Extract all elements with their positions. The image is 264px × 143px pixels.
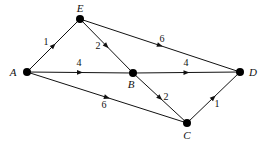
edge-weight-label: 2	[96, 41, 101, 51]
node-b	[129, 69, 137, 77]
node-label-d: D	[249, 67, 257, 78]
graph-canvas	[0, 0, 264, 143]
node-label-c: C	[183, 130, 190, 141]
edge-weight-label: 4	[184, 58, 189, 68]
edge-weight-label: 2	[164, 92, 169, 102]
arrowhead-icon	[183, 70, 189, 75]
edge-weight-label: 1	[215, 99, 220, 109]
node-d	[236, 68, 244, 76]
edge-weight-label: 6	[102, 100, 107, 110]
arrowhead-icon	[77, 70, 83, 75]
nodes-layer	[23, 15, 244, 127]
node-label-b: B	[128, 79, 135, 90]
node-c	[183, 119, 191, 127]
edge-weight-label: 6	[160, 34, 165, 44]
node-label-e: E	[77, 3, 84, 14]
edge-weight-label: 1	[44, 37, 49, 47]
edge-weight-label: 4	[77, 58, 82, 68]
node-a	[23, 68, 31, 76]
node-label-a: A	[10, 67, 17, 78]
node-e	[76, 15, 84, 23]
